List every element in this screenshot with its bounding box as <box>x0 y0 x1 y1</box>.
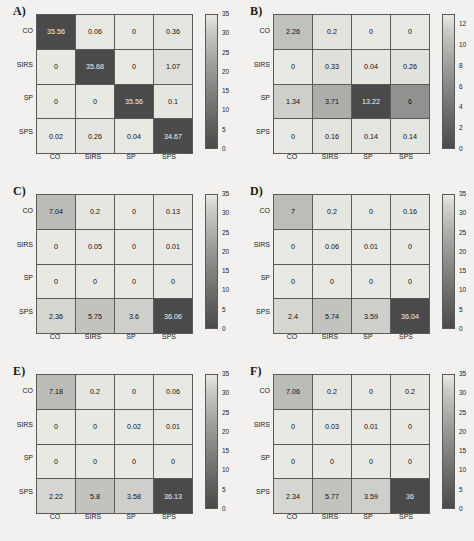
heatmap-cell: 7.18 <box>37 375 76 410</box>
heatmap-cell: 0.2 <box>313 195 352 230</box>
heatmap-row: 00.060.010 <box>274 229 430 264</box>
panel-f: F)7.060.200.200.030.01000002.345.773.593… <box>237 360 474 541</box>
heatmap-cell: 0 <box>76 409 115 444</box>
heatmap-cell: 0 <box>37 264 76 299</box>
x-tick-label: SIRS <box>311 513 349 520</box>
colorbar-tick-label: 35 <box>459 371 466 378</box>
heatmap-cell: 0 <box>37 84 76 119</box>
heatmap-cell: 2.4 <box>274 299 313 334</box>
panel-d-title: D) <box>250 184 263 199</box>
heatmap-cell: 0 <box>115 195 154 230</box>
heatmap-cell: 1.34 <box>274 84 313 119</box>
colorbar-tick-label: 0 <box>459 506 463 513</box>
colorbar-tick-label: 15 <box>459 268 466 275</box>
colorbar-ticks: 05101520253035 <box>457 194 474 329</box>
colorbar-tick-label: 25 <box>222 49 229 56</box>
colorbar-tick-label: 8 <box>459 63 463 70</box>
heatmap-cell: 0 <box>352 15 391 50</box>
panel-b-title: B) <box>250 4 262 19</box>
heatmap-cell: 0 <box>37 229 76 264</box>
colorbar-tick-label: 25 <box>222 229 229 236</box>
heatmap-row: 7.060.200.2 <box>274 375 430 410</box>
colorbar <box>205 14 218 149</box>
heatmap-cell: 5.75 <box>76 299 115 334</box>
heatmap-row: 2.260.200 <box>274 15 430 50</box>
colorbar-tick-label: 10 <box>459 42 466 49</box>
heatmap-cell: 0 <box>274 119 313 154</box>
colorbar-tick-label: 10 <box>222 287 229 294</box>
colorbar-tick-label: 0 <box>459 326 463 333</box>
colorbar-tick-label: 20 <box>222 249 229 256</box>
heatmap-cell: 3.58 <box>115 479 154 514</box>
heatmap-row: 000.020.01 <box>37 409 193 444</box>
y-tick-label: SP <box>237 454 270 461</box>
panel-a-heatmap: 35.560.0600.36035.6801.070035.560.10.020… <box>36 14 188 149</box>
heatmap-cell: 0.16 <box>391 195 430 230</box>
heatmap-cell: 0.14 <box>352 119 391 154</box>
x-tick-label: CO <box>273 153 311 160</box>
y-tick-label: CO <box>237 387 270 394</box>
x-tick-label: SPS <box>150 153 188 160</box>
panel-d-heatmap: 70.200.1600.060.01000002.45.743.5936.04 <box>273 194 425 329</box>
colorbar-tick-label: 35 <box>459 191 466 198</box>
heatmap-cell: 0.2 <box>76 195 115 230</box>
heatmap-cell: 0.2 <box>76 375 115 410</box>
heatmap-row: 00.160.140.14 <box>274 119 430 154</box>
panel-c-heatmap: 7.040.200.1300.0500.0100002.365.753.636.… <box>36 194 188 329</box>
colorbar-tick-label: 5 <box>222 306 226 313</box>
heatmap-row: 00.0500.01 <box>37 229 193 264</box>
heatmap-cell: 3.59 <box>352 299 391 334</box>
colorbar <box>205 374 218 509</box>
x-tick-label: CO <box>273 333 311 340</box>
heatmap-row: 2.365.753.636.06 <box>37 299 193 334</box>
heatmap-cell: 0 <box>154 264 193 299</box>
y-tick-label: SIRS <box>0 61 33 68</box>
heatmap-cell: 2.34 <box>274 479 313 514</box>
heatmap-cell: 0 <box>313 264 352 299</box>
x-tick-label: SPS <box>150 333 188 340</box>
heatmap-cell: 36.04 <box>391 299 430 334</box>
y-tick-label: SP <box>0 274 33 281</box>
heatmap-cell: 0 <box>115 375 154 410</box>
y-tick-label: SP <box>0 454 33 461</box>
heatmap-row: 0.020.260.0434.67 <box>37 119 193 154</box>
heatmap-cell: 3.6 <box>115 299 154 334</box>
heatmap-cell: 0 <box>352 264 391 299</box>
heatmap-cell: 0 <box>37 409 76 444</box>
colorbar-ticks: 024681012 <box>457 14 474 149</box>
heatmap-cell: 0.06 <box>154 375 193 410</box>
heatmap-cell: 0.01 <box>154 409 193 444</box>
colorbar-tick-label: 30 <box>222 210 229 217</box>
colorbar-tick-label: 4 <box>459 104 463 111</box>
y-tick-label: SPS <box>237 128 270 135</box>
heatmap-cell: 0 <box>274 229 313 264</box>
colorbar-tick-label: 2 <box>459 125 463 132</box>
panel-d: D)70.200.1600.060.01000002.45.743.5936.0… <box>237 180 474 360</box>
colorbar-ticks: 05101520253035 <box>457 374 474 509</box>
heatmap-cell: 0.2 <box>313 375 352 410</box>
heatmap-cell: 2.22 <box>37 479 76 514</box>
heatmap-cell: 0 <box>115 15 154 50</box>
heatmap-cell: 0 <box>391 229 430 264</box>
heatmap-cell: 0 <box>352 195 391 230</box>
heatmap-cell: 0.02 <box>115 409 154 444</box>
x-tick-label: SP <box>112 513 150 520</box>
colorbar-tick-label: 15 <box>222 88 229 95</box>
heatmap-cell: 7 <box>274 195 313 230</box>
x-tick-label: SIRS <box>74 153 112 160</box>
heatmap-cell: 0 <box>352 444 391 479</box>
heatmap-cell: 0 <box>115 264 154 299</box>
heatmap-cell: 0.2 <box>313 15 352 50</box>
heatmap-row: 7.180.200.06 <box>37 375 193 410</box>
heatmap-row: 2.45.743.5936.04 <box>274 299 430 334</box>
y-tick-label: CO <box>0 207 33 214</box>
x-tick-label: SIRS <box>311 333 349 340</box>
heatmap-row: 00.030.010 <box>274 409 430 444</box>
y-tick-label: CO <box>0 387 33 394</box>
panel-b: B)2.260.20000.330.040.261.343.7113.22600… <box>237 0 474 180</box>
heatmap-row: 35.560.0600.36 <box>37 15 193 50</box>
x-tick-label: SP <box>349 333 387 340</box>
y-tick-label: SIRS <box>0 421 33 428</box>
heatmap-cell: 0.04 <box>115 119 154 154</box>
colorbar-tick-label: 5 <box>222 126 226 133</box>
